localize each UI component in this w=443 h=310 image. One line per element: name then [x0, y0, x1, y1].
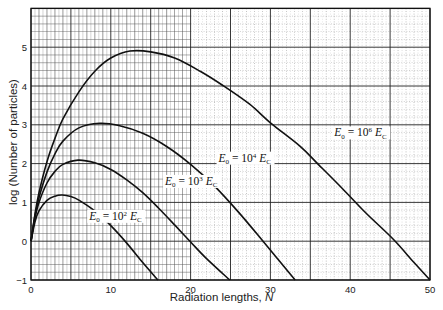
y-tick-label: 0 — [22, 236, 27, 247]
y-tick-label: 5 — [22, 42, 27, 53]
y-tick-label: 2 — [22, 158, 27, 169]
chart-canvas: E0 = 102 ECE0 = 103 ECE0 = 104 ECE0 = 10… — [0, 0, 443, 310]
x-axis-label: Radiation lengths, N — [0, 291, 443, 303]
x-axis-label-var: N — [265, 291, 273, 303]
y-tick-label: 1 — [22, 197, 27, 208]
y-tick-label: −1 — [16, 275, 27, 286]
y-tick-label: 3 — [22, 119, 27, 130]
x-axis-label-text: Radiation lengths, — [170, 291, 265, 303]
y-tick-label: 4 — [22, 81, 27, 92]
y-axis-label: log (Number of particles) — [7, 67, 19, 217]
